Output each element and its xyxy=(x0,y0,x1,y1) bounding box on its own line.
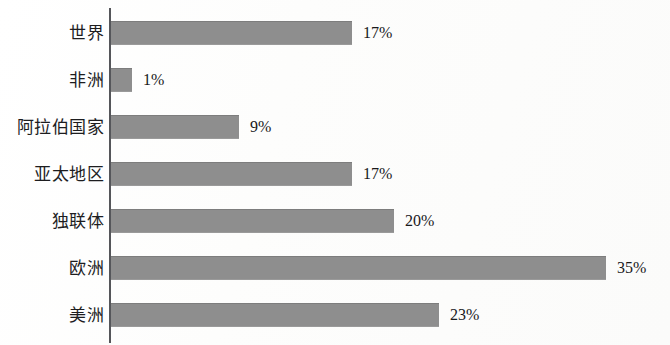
bar-fill[interactable] xyxy=(111,256,606,280)
bar-fill[interactable] xyxy=(111,21,352,45)
bar-category-label: 亚太地区 xyxy=(34,165,104,182)
bar-fill[interactable] xyxy=(111,68,132,92)
bar-fill[interactable] xyxy=(111,303,439,327)
bar-fill[interactable] xyxy=(111,162,352,186)
bar-track: 35% xyxy=(111,256,606,280)
bar-chart: 世界 17% 非洲 1% 阿拉伯国家 9% 亚太地区 17% 独联体 20% xyxy=(0,0,670,345)
bar-value-label: 1% xyxy=(143,72,164,88)
bar-row: 亚太地区 17% xyxy=(0,150,670,197)
bar-row: 美洲 23% xyxy=(0,291,670,338)
bar-category-label: 世界 xyxy=(69,24,104,41)
bar-value-label: 17% xyxy=(363,25,392,41)
bar-category-label: 欧洲 xyxy=(69,259,104,276)
bar-track: 1% xyxy=(111,68,132,92)
bar-row: 独联体 20% xyxy=(0,197,670,244)
bar-category-label: 独联体 xyxy=(52,212,105,229)
bar-value-label: 35% xyxy=(617,260,646,276)
bar-value-label: 20% xyxy=(405,213,434,229)
bar-row: 阿拉伯国家 9% xyxy=(0,103,670,150)
bar-row: 非洲 1% xyxy=(0,56,670,103)
bar-value-label: 9% xyxy=(250,119,271,135)
bar-track: 17% xyxy=(111,21,352,45)
bar-track: 17% xyxy=(111,162,352,186)
bar-fill[interactable] xyxy=(111,115,239,139)
bar-track: 23% xyxy=(111,303,439,327)
bar-fill[interactable] xyxy=(111,209,394,233)
bar-category-label: 美洲 xyxy=(69,306,104,323)
bar-value-label: 23% xyxy=(450,307,479,323)
bar-value-label: 17% xyxy=(363,166,392,182)
bar-row: 欧洲 35% xyxy=(0,244,670,291)
bar-category-label: 阿拉伯国家 xyxy=(17,118,105,135)
bar-track: 20% xyxy=(111,209,394,233)
bar-row: 世界 17% xyxy=(0,9,670,56)
bar-track: 9% xyxy=(111,115,239,139)
bar-category-label: 非洲 xyxy=(69,71,104,88)
